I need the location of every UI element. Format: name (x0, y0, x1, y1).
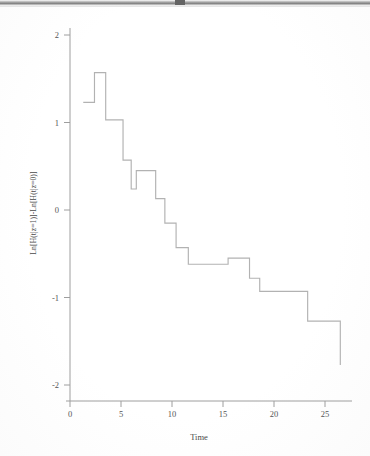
x-axis-tick-labels: 0 5 10 15 20 25 (68, 409, 329, 419)
x-tick-label-15: 15 (219, 409, 228, 419)
y-axis-title: Ln[H(t|z=1)]-Ln[H(t|z=0)] (29, 171, 38, 254)
x-tick-label-5: 5 (119, 409, 123, 419)
y-tick-label-2: 2 (55, 30, 59, 40)
y-tick-label-1: 1 (55, 118, 59, 128)
x-tick-label-0: 0 (68, 409, 72, 419)
step-curve-series-0 (83, 73, 340, 365)
x-tick-label-25: 25 (321, 409, 330, 419)
x-tick-label-10: 10 (168, 409, 177, 419)
y-tick-label-m1: -1 (52, 293, 59, 303)
x-axis-ticks (70, 401, 325, 407)
chart-canvas: 2 1 0 -1 -2 0 5 10 15 20 25 Time Ln[H(t|… (0, 0, 370, 456)
y-tick-label-0: 0 (55, 205, 59, 215)
y-tick-label-m2: -2 (52, 380, 59, 390)
x-axis-title: Time (190, 432, 208, 442)
x-tick-label-20: 20 (270, 409, 279, 419)
y-axis-ticks (64, 35, 70, 385)
y-axis-tick-labels: 2 1 0 -1 -2 (52, 30, 59, 390)
chart-figure: 2 1 0 -1 -2 0 5 10 15 20 25 Time Ln[H(t|… (0, 0, 370, 456)
